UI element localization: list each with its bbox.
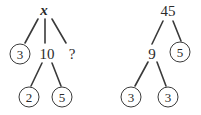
factor-tree-figure: x 3 10 ? 2 5 45 9 5 3 3	[0, 0, 201, 115]
edge-x-to-q	[52, 19, 66, 43]
node-right-leaf-3a: 3	[121, 87, 142, 108]
node-left-root-x: x	[40, 3, 48, 18]
edge-9-to-3b	[157, 62, 166, 86]
edge-45-to-5	[173, 21, 181, 41]
node-left-unknown-question: ?	[69, 47, 76, 62]
edge-9-to-3a	[135, 62, 148, 86]
node-left-leaf-2: 2	[19, 87, 40, 108]
node-left-factor-10: 10	[40, 47, 55, 62]
node-right-leaf-3b: 3	[158, 87, 179, 108]
edge-45-to-9	[152, 21, 163, 44]
edge-10-to-5	[52, 63, 61, 86]
node-right-factor-9: 9	[148, 47, 156, 62]
edge-10-to-2	[31, 63, 42, 86]
node-right-root-45: 45	[161, 4, 176, 19]
node-left-leaf-5: 5	[52, 87, 73, 108]
edge-x-to-3	[25, 19, 38, 43]
node-right-factor-5: 5	[170, 42, 191, 63]
node-left-factor-3: 3	[10, 44, 31, 65]
